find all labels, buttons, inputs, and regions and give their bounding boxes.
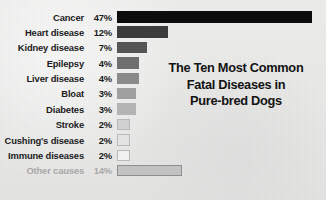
chart-row-other: Other causes 14% bbox=[0, 165, 326, 180]
chart-row: Heart disease 12% bbox=[0, 26, 326, 41]
value-label: 3% bbox=[88, 104, 112, 116]
category-label: Cancer bbox=[0, 12, 84, 24]
value-label: 7% bbox=[88, 42, 112, 54]
chart-title-line-3: Pure-bred Dogs bbox=[148, 93, 324, 110]
category-label: Heart disease bbox=[0, 27, 84, 39]
bar bbox=[117, 88, 136, 100]
bar bbox=[117, 73, 139, 85]
value-label: 47% bbox=[88, 12, 112, 24]
category-label: Cushing's disease bbox=[0, 135, 84, 147]
value-label: 14% bbox=[88, 165, 112, 177]
value-label: 2% bbox=[88, 135, 112, 147]
bar bbox=[117, 103, 136, 115]
category-label: Stroke bbox=[0, 119, 84, 131]
category-label: Epilepsy bbox=[0, 58, 84, 70]
chart-title-line-1: The Ten Most Common bbox=[148, 60, 324, 77]
value-label: 2% bbox=[88, 119, 112, 131]
bar bbox=[117, 11, 312, 23]
chart-title-line-2: Fatal Diseases in bbox=[148, 77, 324, 94]
category-label: Bloat bbox=[0, 88, 84, 100]
bar-track bbox=[117, 11, 326, 23]
chart-row: Immune diseases 2% bbox=[0, 150, 326, 165]
category-label: Immune diseases bbox=[0, 150, 84, 162]
category-label: Liver disease bbox=[0, 73, 84, 85]
category-label: Other causes bbox=[0, 165, 84, 177]
bar bbox=[117, 134, 130, 146]
value-label: 4% bbox=[88, 73, 112, 85]
chart-figure: Cancer 47% Heart disease 12% Kidney dise… bbox=[0, 0, 326, 200]
bar bbox=[117, 57, 139, 69]
category-label: Kidney disease bbox=[0, 42, 84, 54]
bar bbox=[117, 165, 182, 177]
value-label: 12% bbox=[88, 27, 112, 39]
bar-track bbox=[117, 119, 326, 131]
bar-track bbox=[117, 150, 326, 162]
chart-title: The Ten Most Common Fatal Diseases in Pu… bbox=[148, 60, 324, 110]
bar-track bbox=[117, 42, 326, 54]
chart-row: Cancer 47% bbox=[0, 11, 326, 26]
chart-row: Stroke 2% bbox=[0, 119, 326, 134]
value-label: 3% bbox=[88, 88, 112, 100]
bar bbox=[117, 119, 130, 131]
bar-track bbox=[117, 165, 326, 177]
value-label: 4% bbox=[88, 58, 112, 70]
category-label: Diabetes bbox=[0, 104, 84, 116]
bar bbox=[117, 150, 130, 162]
bar-track bbox=[117, 26, 326, 38]
chart-row: Cushing's disease 2% bbox=[0, 134, 326, 149]
chart-row: Kidney disease 7% bbox=[0, 42, 326, 57]
bar bbox=[117, 26, 168, 38]
value-label: 2% bbox=[88, 150, 112, 162]
bar bbox=[117, 42, 147, 54]
bar-track bbox=[117, 134, 326, 146]
